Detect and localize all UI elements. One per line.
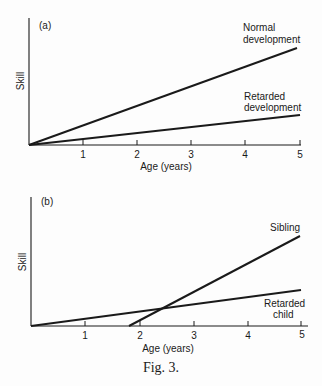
chart-b-tick-3: 3 bbox=[191, 330, 197, 341]
chart-b-tick-1: 1 bbox=[82, 330, 88, 341]
chart-b-tick-5: 5 bbox=[299, 329, 305, 340]
chart-a-label-retarded-1: Retarded bbox=[244, 91, 285, 102]
chart-b-line-retarded-child bbox=[31, 290, 301, 326]
figure: 1 2 3 4 5 Age (years) Skill (a) Normal d… bbox=[0, 0, 322, 386]
chart-b-panel-label: (b) bbox=[41, 196, 53, 207]
figure-caption: Fig. 3. bbox=[0, 360, 322, 376]
chart-a-label-normal-2: development bbox=[243, 34, 300, 45]
chart-a-ylabel: Skill bbox=[15, 72, 26, 90]
chart-b-ylabel: Skill bbox=[17, 253, 28, 271]
chart-a-tick-3: 3 bbox=[188, 149, 194, 160]
chart-b-label-sibling: Sibling bbox=[270, 222, 300, 233]
chart-a-panel-label: (a) bbox=[39, 20, 51, 31]
chart-b-label-retarded-2: child bbox=[273, 309, 294, 320]
chart-b-label-retarded-1: Retarded bbox=[264, 298, 305, 309]
chart-a-ticks bbox=[83, 140, 300, 145]
chart-a-xlabel: Age (years) bbox=[140, 161, 192, 172]
chart-b-ticks bbox=[85, 321, 301, 326]
chart-a-tick-4: 4 bbox=[242, 149, 248, 160]
chart-a-tick-1: 1 bbox=[80, 149, 86, 160]
chart-b-tick-4: 4 bbox=[245, 330, 251, 341]
chart-a-label-normal-1: Normal bbox=[243, 22, 275, 33]
chart-a-label-retarded-2: development bbox=[244, 102, 301, 113]
chart-b-tick-2: 2 bbox=[137, 330, 143, 341]
chart-a-tick-5: 5 bbox=[297, 149, 303, 160]
chart-b: 1 2 3 4 5 Age (years) Skill (b) Sibling … bbox=[17, 196, 308, 354]
chart-b-xlabel: Age (years) bbox=[142, 343, 194, 354]
chart-a: 1 2 3 4 5 Age (years) Skill (a) Normal d… bbox=[15, 18, 303, 172]
chart-a-tick-2: 2 bbox=[134, 149, 140, 160]
